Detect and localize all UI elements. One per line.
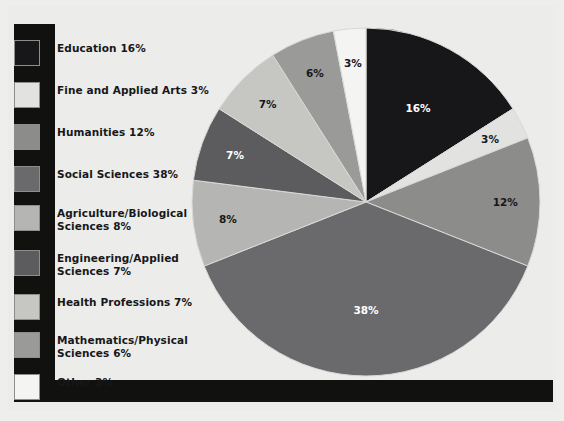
frame-left-bar	[14, 24, 55, 380]
pie-slice-label: 3%	[344, 57, 362, 69]
legend-item-label: Education 16%	[55, 42, 146, 55]
legend-item: Mathematics/Physical Sciences 6%	[55, 334, 188, 359]
pie-slice-label: 7%	[226, 149, 244, 161]
legend-swatch	[14, 250, 40, 276]
legend-item-label: Social Sciences 38%	[55, 168, 178, 181]
legend-swatch	[14, 82, 40, 108]
legend-item: Agriculture/Biological Sciences 8%	[55, 207, 187, 232]
pie-slice-label: 8%	[219, 213, 237, 225]
legend-item-label: Health Professions 7%	[55, 296, 192, 309]
pie-slice-label: 16%	[405, 102, 431, 114]
legend-item-label: Mathematics/Physical Sciences 6%	[55, 334, 188, 359]
legend-swatch	[14, 40, 40, 66]
legend-swatch	[14, 205, 40, 231]
legend-item-label: Fine and Applied Arts 3%	[55, 84, 209, 97]
figure-canvas: Education 16%Fine and Applied Arts 3%Hum…	[0, 0, 564, 421]
legend-item-label: Humanities 12%	[55, 126, 155, 139]
legend-item-label: Engineering/Applied Sciences 7%	[55, 252, 179, 277]
pie-slice-label: 6%	[306, 67, 324, 79]
legend-item: Social Sciences 38%	[55, 168, 178, 181]
legend-item-label: Agriculture/Biological Sciences 8%	[55, 207, 187, 232]
legend-swatch	[14, 166, 40, 192]
legend-item: Health Professions 7%	[55, 296, 192, 309]
legend-swatch	[14, 124, 40, 150]
legend-item: Education 16%	[55, 42, 146, 55]
legend-item: Fine and Applied Arts 3%	[55, 84, 209, 97]
legend-swatch	[14, 294, 40, 320]
pie-slice-label: 3%	[481, 133, 499, 145]
legend-swatch	[14, 374, 40, 400]
legend-item: Humanities 12%	[55, 126, 155, 139]
legend-swatch	[14, 332, 40, 358]
legend-item: Engineering/Applied Sciences 7%	[55, 252, 179, 277]
pie-chart-svg: 16%3%12%38%8%7%7%6%3%	[191, 27, 541, 377]
pie-slice-label: 7%	[259, 98, 277, 110]
pie-slice-label: 38%	[353, 304, 379, 316]
legend-item: Other 3%	[55, 376, 113, 389]
pie-chart: 16%3%12%38%8%7%7%6%3%	[191, 27, 541, 377]
legend-item-label: Other 3%	[55, 376, 113, 389]
pie-slice-label: 12%	[493, 196, 519, 208]
